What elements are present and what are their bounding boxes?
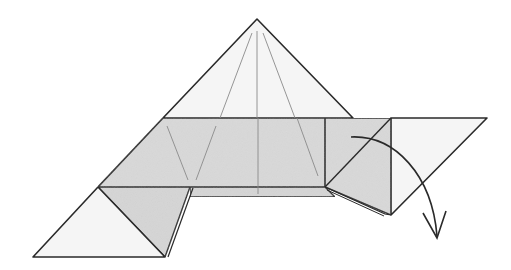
diagram-canvas (0, 0, 511, 270)
origami-diagram: Origami fold step (0, 0, 511, 270)
lower-strip (190, 187, 335, 197)
right-triangle (391, 118, 487, 215)
top-pyramid (163, 19, 353, 118)
right-square (325, 118, 391, 216)
center-band (98, 118, 325, 194)
